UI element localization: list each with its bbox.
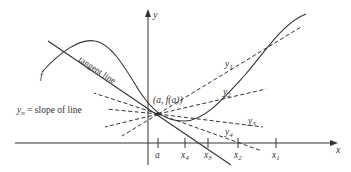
secant-label-y3: y3 — [247, 116, 256, 128]
tick-label-a: a — [155, 150, 160, 160]
secant-y2-ext — [105, 114, 158, 127]
secant-label-y1: y1 — [224, 59, 233, 71]
secant-lines — [94, 27, 301, 151]
secant-y1-ext — [122, 114, 158, 136]
tangent-line-label: tangent line — [77, 54, 118, 85]
y-axis-label: y — [152, 9, 158, 20]
y-axis-arrow-icon — [145, 9, 151, 17]
tick-label-x4: x4 — [180, 150, 189, 162]
secant-y4 — [158, 114, 262, 151]
tangent-diagram: y x f tangent line (a, f(a)) yn = slope … — [0, 0, 351, 172]
curve-label: f — [40, 70, 44, 81]
tick-label-x2: x2 — [233, 150, 242, 162]
legend-slope: yn = slope of line — [16, 105, 82, 117]
secant-label-y4: y4 — [224, 127, 233, 139]
axes — [15, 14, 334, 165]
tick-label-x1: x1 — [271, 150, 280, 162]
point-a-fa — [156, 112, 160, 116]
x-axis-label: x — [335, 144, 341, 155]
point-label: (a, f(a)) — [153, 95, 183, 106]
